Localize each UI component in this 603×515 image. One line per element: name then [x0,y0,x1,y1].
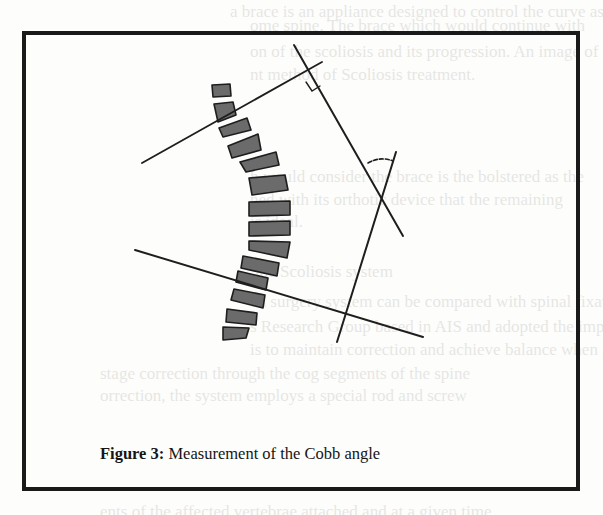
cobb-lines [135,45,423,342]
upper-perpendicular-line [294,45,403,236]
vertebra [226,309,257,325]
vertebra [249,201,290,216]
lower-perpendicular-line [337,152,396,342]
cobb-angle-diagram [0,0,603,515]
figure-caption-text: Measurement of the Cobb angle [164,444,380,463]
figure-caption-label: Figure 3: [100,444,164,463]
vertebra [249,241,290,258]
spine-vertebrae [212,84,290,340]
vertebra [249,175,288,195]
vertebra [228,134,261,158]
vertebra [231,289,265,308]
vertebra [223,327,249,340]
vertebra [249,221,290,236]
figure-caption: Figure 3: Measurement of the Cobb angle [100,444,380,464]
vertebra [212,84,231,97]
vertebra [219,118,251,137]
right-angle-marker [306,82,320,91]
cobb-angle-arc [368,159,393,163]
vertebra [236,271,268,290]
